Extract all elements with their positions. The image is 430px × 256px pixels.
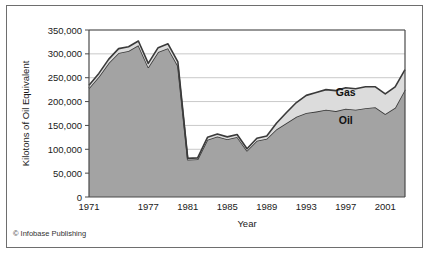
series-label-gas: Gas bbox=[336, 86, 356, 98]
stacked-area-chart: 050,000100,000150,000200,000250,000300,0… bbox=[7, 6, 422, 247]
x-tick-label: 2001 bbox=[375, 201, 396, 212]
x-tick-label: 1989 bbox=[256, 201, 277, 212]
area-oil bbox=[89, 45, 405, 197]
x-tick-label: 1993 bbox=[296, 201, 317, 212]
x-axis-tick-labels: 19711977198119851989199319972001 bbox=[78, 201, 395, 212]
x-tick-label: 1977 bbox=[138, 201, 159, 212]
y-tick-label: 250,000 bbox=[48, 72, 82, 83]
y-tick-label: 50,000 bbox=[53, 168, 82, 179]
y-tick-label: 100,000 bbox=[48, 144, 82, 155]
chart-frame: 050,000100,000150,000200,000250,000300,0… bbox=[6, 5, 423, 248]
y-axis-title: Kilotons of Oil Equivalent bbox=[20, 60, 31, 166]
x-tick-label: 1985 bbox=[217, 201, 238, 212]
area-series-group bbox=[89, 41, 405, 197]
figure-container: 050,000100,000150,000200,000250,000300,0… bbox=[0, 0, 430, 256]
y-tick-label: 150,000 bbox=[48, 120, 82, 131]
y-tick-label: 200,000 bbox=[48, 96, 82, 107]
y-axis-tick-labels: 050,000100,000150,000200,000250,000300,0… bbox=[48, 25, 89, 203]
x-tick-label: 1997 bbox=[335, 201, 356, 212]
copyright-credit: © Infobase Publishing bbox=[13, 229, 86, 238]
y-tick-label: 350,000 bbox=[48, 25, 82, 36]
x-axis-title: Year bbox=[237, 218, 256, 229]
series-label-oil: Oil bbox=[339, 114, 353, 126]
x-tick-label: 1981 bbox=[177, 201, 198, 212]
x-tick-label: 1971 bbox=[78, 201, 99, 212]
y-tick-label: 300,000 bbox=[48, 48, 82, 59]
